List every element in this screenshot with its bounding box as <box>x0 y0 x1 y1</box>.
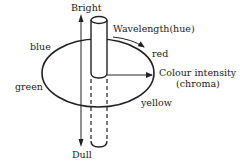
hue-label-green: green <box>15 82 43 92</box>
brightness-axis-arrow <box>79 14 84 147</box>
hue-label-blue: blue <box>30 42 51 52</box>
hue-label-red: red <box>152 49 168 59</box>
bright-label: Bright <box>71 3 102 13</box>
chroma-label-line2: (chroma) <box>176 79 220 89</box>
chroma-label-line1: Colour intensity <box>159 68 236 78</box>
wavelength-hue-label: Wavelength(hue) <box>113 24 195 34</box>
colour-solid-diagram: Bright Dull Wavelength(hue) blue red gre… <box>0 0 243 165</box>
dull-label: Dull <box>72 150 92 160</box>
hue-label-yellow: yellow <box>141 98 172 108</box>
lightness-cylinder <box>91 17 107 148</box>
hue-arrow <box>113 37 144 47</box>
